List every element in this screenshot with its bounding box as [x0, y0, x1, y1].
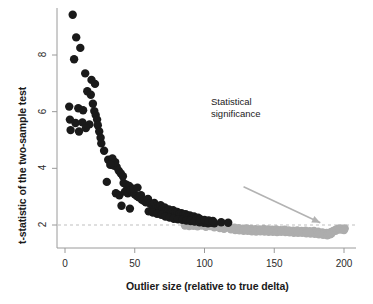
data-point — [326, 230, 334, 238]
statistical-significance-annotation: Statistical significance — [211, 96, 261, 120]
y-axis-title: t-statistic of the two-sample test — [16, 87, 28, 244]
data-point — [91, 80, 99, 88]
x-tick-label: 150 — [259, 258, 289, 269]
chart-figure: t-statistic of the two-sample test Outli… — [0, 0, 373, 304]
data-point — [340, 226, 348, 234]
series-significant — [65, 11, 232, 228]
data-point — [133, 183, 141, 191]
data-point — [263, 227, 271, 235]
data-point — [66, 126, 74, 134]
annotation-line-1: Statistical — [211, 96, 261, 108]
y-tick-label: 6 — [37, 104, 48, 118]
data-point — [72, 33, 80, 41]
data-point — [305, 229, 313, 237]
data-point — [87, 91, 95, 99]
data-point — [76, 44, 84, 52]
data-point — [126, 204, 134, 212]
data-point — [79, 106, 87, 114]
annotation-arrow-line — [244, 187, 321, 223]
data-point — [103, 178, 111, 186]
x-tick-label: 50 — [120, 258, 150, 269]
data-point — [242, 226, 250, 234]
x-tick-label: 100 — [190, 258, 220, 269]
data-point — [100, 147, 108, 155]
data-point — [70, 55, 78, 63]
data-point — [89, 100, 97, 108]
data-point — [224, 219, 232, 227]
y-tick-label: 4 — [37, 161, 48, 175]
y-tick-label: 2 — [37, 218, 48, 232]
y-tick-label: 8 — [37, 48, 48, 62]
data-point — [82, 124, 90, 132]
data-point — [65, 102, 73, 110]
data-point — [81, 69, 89, 77]
x-axis-title: Outlier size (relative to true delta) — [126, 280, 289, 292]
data-point — [69, 11, 77, 19]
data-point — [117, 202, 125, 210]
data-point — [209, 217, 217, 225]
data-point — [97, 139, 105, 147]
annotation-line-2: significance — [211, 108, 261, 120]
x-tick-label: 0 — [50, 258, 80, 269]
x-tick-label: 200 — [329, 258, 359, 269]
data-point — [284, 227, 292, 235]
data-point — [106, 161, 114, 169]
